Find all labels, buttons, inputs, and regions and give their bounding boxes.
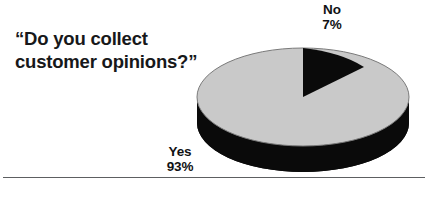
footer-divider [3, 177, 425, 178]
pie-chart-svg [185, 20, 429, 180]
pie-chart-figure: “Do you collect customer opinions?” No 7… [0, 0, 429, 197]
pie-label-yes: Yes 93% [156, 145, 204, 174]
pie-chart-graphic [185, 20, 429, 180]
pie-label-no: No 7% [310, 3, 354, 32]
